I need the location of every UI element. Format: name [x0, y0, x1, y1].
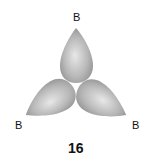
- lobe-top: [60, 28, 93, 83]
- label-right-b: B: [132, 120, 139, 131]
- figure-number: 16: [68, 141, 84, 155]
- label-left-b: B: [15, 120, 22, 131]
- label-top-b: B: [73, 12, 80, 23]
